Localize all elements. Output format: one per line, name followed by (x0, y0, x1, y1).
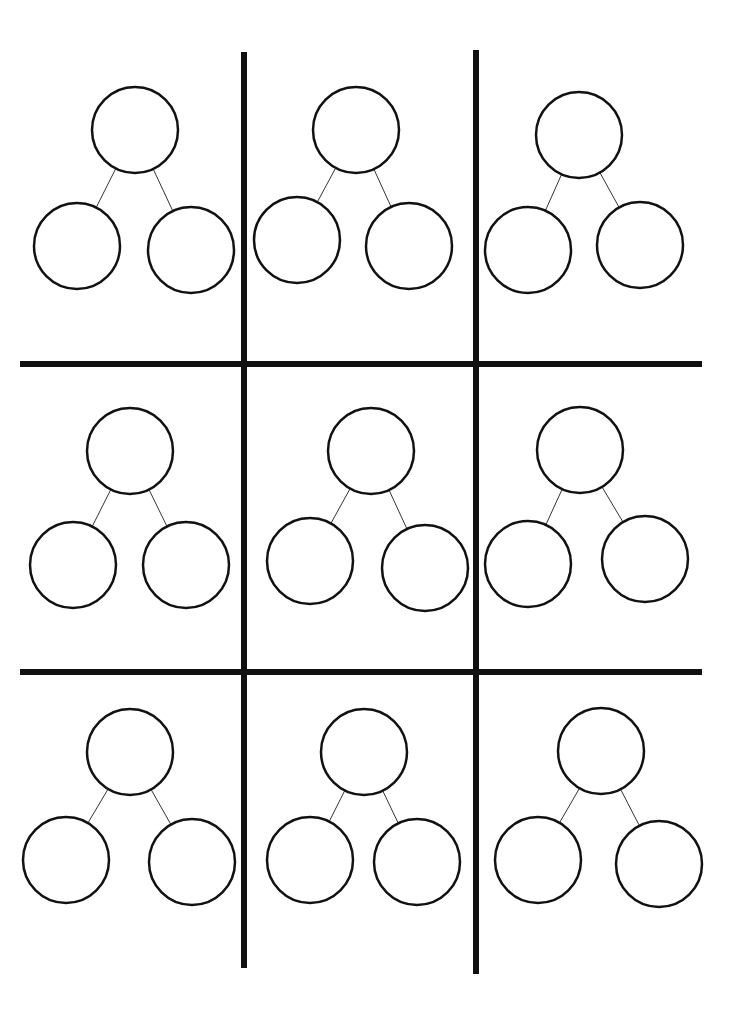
part-circle-right[interactable] (149, 819, 235, 905)
number-bond (23, 709, 235, 905)
connector-right-line (600, 173, 619, 208)
part-circle-left[interactable] (267, 518, 353, 604)
whole-circle[interactable] (536, 92, 622, 178)
part-circle-right[interactable] (148, 207, 234, 293)
number-bond (495, 708, 702, 907)
part-circle-right[interactable] (616, 821, 702, 907)
connector-right-line (383, 791, 399, 824)
part-circle-left[interactable] (485, 521, 571, 607)
part-circle-left[interactable] (30, 522, 116, 608)
number-bond (30, 408, 229, 608)
number-bonds (23, 87, 702, 907)
connector-right-line (389, 490, 407, 529)
number-bond (254, 87, 452, 289)
whole-circle[interactable] (537, 407, 623, 493)
number-bond (34, 87, 234, 293)
whole-circle[interactable] (313, 87, 399, 173)
connector-left-line (331, 489, 350, 524)
connector-left-line (546, 489, 562, 525)
whole-circle[interactable] (321, 709, 407, 795)
number-bond (485, 92, 683, 293)
part-circle-left[interactable] (267, 817, 353, 903)
connector-right-line (621, 789, 640, 825)
part-circle-right[interactable] (597, 202, 683, 288)
part-circle-left[interactable] (34, 203, 120, 289)
part-circle-right[interactable] (382, 525, 468, 611)
whole-circle[interactable] (558, 708, 644, 794)
connector-right-line (149, 490, 167, 527)
connector-left-line (92, 490, 111, 527)
grid-lines (20, 50, 702, 974)
connector-left-line (317, 168, 335, 202)
connector-left-line (88, 789, 108, 823)
connector-left-line (329, 791, 345, 822)
connector-right-line (374, 169, 391, 207)
whole-circle[interactable] (87, 408, 173, 494)
whole-circle[interactable] (87, 709, 173, 795)
part-circle-left[interactable] (254, 197, 340, 283)
part-circle-left[interactable] (23, 817, 109, 903)
connector-right-line (602, 487, 623, 522)
connector-left-line (96, 169, 116, 208)
number-bond-worksheet (0, 0, 745, 1022)
part-circle-right[interactable] (366, 203, 452, 289)
part-circle-right[interactable] (374, 819, 460, 905)
worksheet-canvas (0, 0, 745, 1022)
connector-left-line (545, 174, 561, 210)
part-circle-right[interactable] (602, 516, 688, 602)
part-circle-left[interactable] (485, 207, 571, 293)
number-bond (267, 709, 460, 905)
connector-right-line (153, 169, 173, 211)
connector-left-line (560, 788, 580, 823)
whole-circle[interactable] (92, 87, 178, 173)
part-circle-left[interactable] (495, 817, 581, 903)
part-circle-right[interactable] (143, 522, 229, 608)
number-bond (485, 407, 688, 607)
connector-right-line (151, 790, 171, 825)
whole-circle[interactable] (328, 408, 414, 494)
number-bond (267, 408, 468, 611)
